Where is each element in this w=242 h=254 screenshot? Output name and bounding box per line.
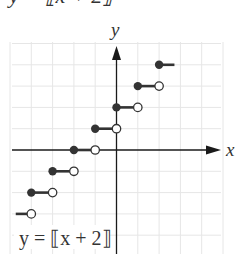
step-segment — [16, 210, 36, 218]
closed-endpoint-icon — [27, 188, 35, 196]
closed-endpoint-icon — [112, 103, 120, 111]
function-label-box: y = ⟦x + 2⟧ — [14, 225, 112, 250]
clipped-title-text: y = ⟦x + 2⟧ — [7, 0, 115, 8]
x-axis-label: x — [225, 139, 235, 160]
open-endpoint-icon — [70, 167, 78, 175]
open-endpoint-icon — [112, 125, 120, 133]
step-segment — [155, 61, 175, 69]
open-endpoint-icon — [27, 210, 35, 218]
x-axis-arrow-icon — [206, 146, 221, 155]
open-endpoint-icon — [48, 188, 56, 196]
step-segment — [112, 103, 142, 111]
closed-endpoint-icon — [134, 82, 142, 90]
step-segment — [48, 167, 78, 175]
step-segment — [134, 82, 164, 90]
open-endpoint-icon — [134, 103, 142, 111]
closed-endpoint-icon — [70, 146, 78, 154]
function-label: y = ⟦x + 2⟧ — [19, 227, 112, 250]
step-segment — [91, 125, 121, 133]
closed-endpoint-icon — [91, 125, 99, 133]
closed-endpoint-icon — [155, 61, 163, 69]
open-endpoint-icon — [155, 82, 163, 90]
y-axis-arrow-icon — [112, 46, 121, 60]
closed-endpoint-icon — [48, 167, 56, 175]
step-function-graph: y = ⟦x + 2⟧ x y y = ⟦x + 2⟧ — [0, 0, 242, 254]
clipped-title: y = ⟦x + 2⟧ — [7, 0, 115, 8]
open-endpoint-icon — [91, 146, 99, 154]
y-axis-label: y — [109, 19, 120, 40]
step-segment — [27, 188, 57, 196]
step-segment — [70, 146, 100, 154]
